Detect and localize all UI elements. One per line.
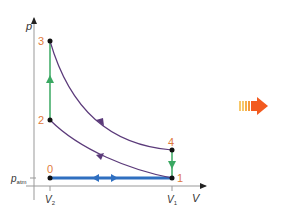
arrow-up-icon	[46, 75, 54, 83]
point-0	[48, 176, 53, 181]
point-label-1: 1	[177, 172, 183, 184]
v1-label: V1	[167, 194, 178, 206]
point-label-2: 2	[38, 114, 44, 126]
point-4	[170, 148, 175, 153]
process-arrow-icon	[239, 97, 268, 115]
p-axis-label: p	[25, 20, 32, 32]
arrow-left-icon	[92, 174, 99, 182]
patm-label: patm	[10, 173, 27, 185]
arrow-expansion-icon	[96, 118, 104, 126]
point-1	[170, 176, 175, 181]
arrow-right-icon	[111, 174, 118, 182]
v-axis-label: V	[192, 192, 201, 204]
point-label-3: 3	[38, 35, 44, 47]
point-label-4: 4	[168, 136, 174, 148]
process-3-4	[50, 41, 172, 150]
v2-label: V2	[45, 194, 56, 206]
process-1-2	[50, 120, 172, 178]
arrow-down-icon	[168, 161, 176, 169]
point-label-0: 0	[47, 163, 53, 175]
arrow-compression-icon	[96, 153, 104, 160]
point-3	[48, 39, 53, 44]
point-2	[48, 118, 53, 123]
pv-diagram: p V patm V2 V1 0 1 2 3 4	[0, 0, 296, 215]
